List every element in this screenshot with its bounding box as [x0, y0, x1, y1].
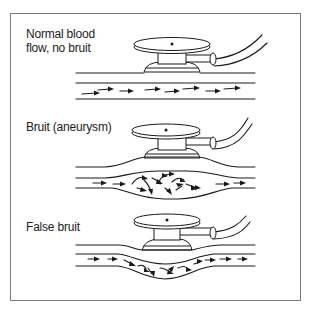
panel-bruit-aneurysm: Bruit (aneurysm): [0, 104, 311, 200]
flow-arrow-icon: [0, 208, 311, 308]
flow-arrow-icon: [0, 0, 311, 100]
flow-arrow-icon: [0, 104, 311, 204]
panel-normal-flow: Normal blood flow, no bruit: [0, 0, 311, 96]
panel-false-bruit: False bruit: [0, 208, 311, 304]
